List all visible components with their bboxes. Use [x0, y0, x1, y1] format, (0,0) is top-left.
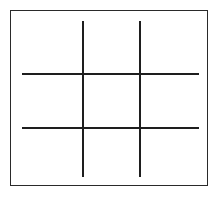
outer-frame	[10, 10, 208, 186]
grid-horizontal-line-1	[22, 73, 199, 75]
grid-vertical-line-1	[82, 21, 84, 177]
grid-vertical-line-2	[139, 21, 141, 177]
grid-horizontal-line-2	[22, 127, 199, 129]
